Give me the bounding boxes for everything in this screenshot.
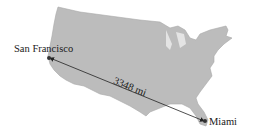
miami-label: Miami — [209, 117, 237, 128]
san-francisco-point — [47, 56, 51, 60]
miami-point — [203, 119, 207, 123]
us-map-diagram: San Francisco Miami 3348 mi — [0, 0, 256, 140]
san-francisco-label: San Francisco — [14, 44, 73, 55]
usa-landmass — [48, 7, 232, 126]
